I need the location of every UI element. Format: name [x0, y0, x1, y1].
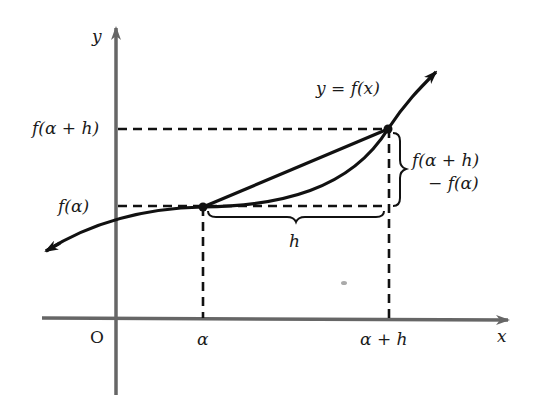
- origin-label: O: [90, 327, 104, 347]
- brace-label-h: h: [289, 231, 300, 251]
- x-label-alpha: α: [197, 329, 209, 349]
- vertical-brace: [393, 133, 406, 206]
- point-a: [199, 203, 208, 212]
- secant-diagram: y x O y = f(x) f(α + h) f(α) α α + h h f…: [0, 0, 540, 407]
- x-axis-label: x: [497, 326, 507, 346]
- scan-speck: [341, 281, 347, 285]
- function-curve: [46, 72, 436, 251]
- y-label-f-alpha: f(α): [56, 196, 89, 216]
- point-b: [384, 125, 393, 134]
- brace-label-diff-line1: f(α + h): [410, 150, 479, 170]
- curve-label: y = f(x): [315, 78, 380, 98]
- dashed-guides: [118, 129, 389, 318]
- y-axis-label: y: [91, 26, 102, 46]
- curve-left-arrow: [46, 243, 60, 251]
- x-label-alpha-plus-h: α + h: [360, 329, 407, 349]
- x-axis: [42, 318, 508, 320]
- brace-label-diff-line2: − f(α): [428, 173, 479, 193]
- y-label-f-alpha-plus-h: f(α + h): [30, 118, 99, 138]
- horizontal-brace: [208, 211, 384, 222]
